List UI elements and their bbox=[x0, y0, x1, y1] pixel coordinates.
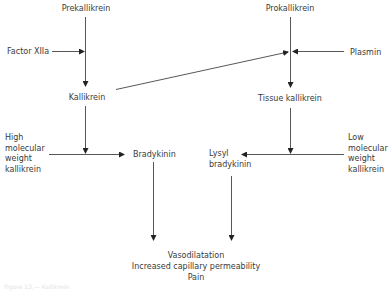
node-kallikrein: Kallikrein bbox=[69, 93, 106, 103]
diagram-connectors bbox=[0, 0, 392, 292]
arrow-kallikrein-to-prokallikrein bbox=[116, 52, 288, 90]
node-effects: Vasodilatation Increased capillary perme… bbox=[132, 250, 260, 283]
node-high-molecular-weight-kallikrein: High molecular weight kallikrein bbox=[5, 133, 45, 175]
node-prokallikrein: Prokallikrein bbox=[266, 4, 315, 14]
node-factor-xiia: Factor XIIa bbox=[7, 47, 49, 57]
node-tissue-kallikrein: Tissue kallikrein bbox=[258, 94, 322, 104]
node-lysyl-bradykinin: Lysyl bradykinin bbox=[209, 149, 251, 170]
node-low-molecular-weight-kallikrein: Low molecular weight kallikrein bbox=[348, 133, 388, 175]
node-plasmin: Plasmin bbox=[350, 48, 381, 58]
figure-caption: Figure 13.— Kallikrein bbox=[4, 283, 69, 290]
node-prekallikrein: Prekallikrein bbox=[62, 4, 111, 14]
node-bradykinin: Bradykinin bbox=[133, 150, 176, 160]
